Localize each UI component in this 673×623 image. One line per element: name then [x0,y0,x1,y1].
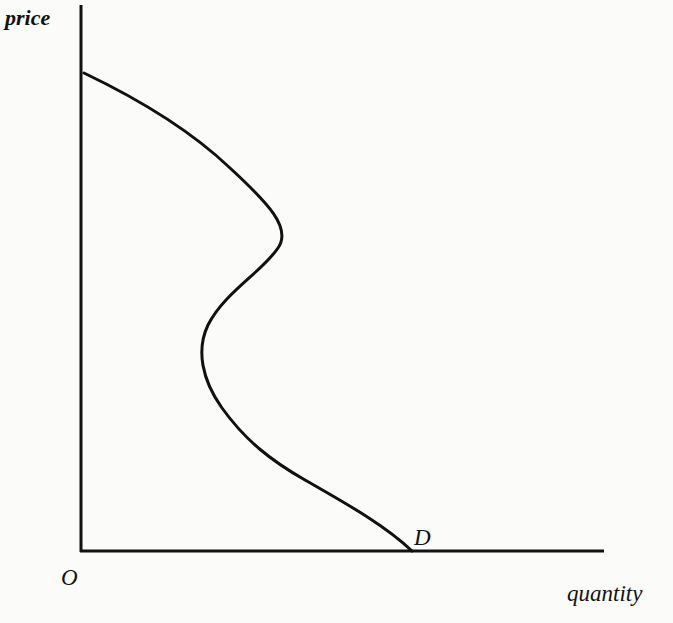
demand-diagram [0,0,673,623]
demand-curve [84,73,412,551]
demand-curve-label: D [414,526,431,549]
origin-label: O [61,566,78,589]
price-axis-label: price [5,7,50,29]
quantity-axis-label: quantity [567,582,642,605]
